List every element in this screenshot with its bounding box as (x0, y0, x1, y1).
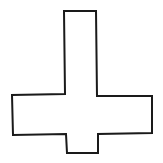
inverted-cross-figure (0, 0, 163, 163)
inverted-cross-outline (12, 11, 152, 153)
drawing-canvas (0, 0, 163, 163)
